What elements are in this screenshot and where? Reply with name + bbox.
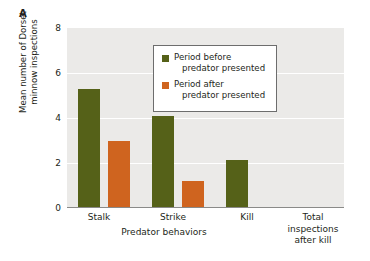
x-axis-title: Predator behaviors [89, 227, 239, 237]
bar-strike-before[interactable] [152, 116, 174, 208]
y-tick-label-4: 4 [44, 113, 61, 123]
legend-label-before: Period before predator presented [174, 52, 265, 74]
y-axis-tick-labels: 8 6 4 2 0 [44, 0, 61, 261]
x-tick-label-stalk: Stalk [64, 212, 134, 224]
legend-label-before-line-2: predator presented [174, 63, 265, 74]
gridline-4 [67, 118, 344, 119]
legend-swatch-before-icon [162, 55, 169, 62]
y-axis-title: Mean number of Dorset minnow inspections [15, 0, 43, 147]
x-tick-label-stalk-line-1: Stalk [64, 212, 134, 224]
x-tick-label-total-line-1: Total [265, 212, 361, 224]
y-tick-label-8: 8 [44, 23, 61, 33]
x-tick-label-total-line-2: inspections [265, 224, 361, 236]
x-tick-label-total-line-3: after kill [265, 235, 361, 247]
legend-label-after-line-2: predator presented [174, 90, 265, 101]
chart-legend: Period before predator presented Period … [153, 45, 277, 112]
x-tick-label-total: Total inspections after kill [265, 212, 361, 247]
legend-item-after[interactable]: Period after predator presented [162, 79, 270, 101]
legend-label-after-line-1: Period after [174, 79, 224, 89]
y-axis-title-line-1: Mean number of Dorset [18, 11, 29, 113]
y-tick-label-2: 2 [44, 158, 61, 168]
legend-item-before[interactable]: Period before predator presented [162, 52, 270, 74]
x-tick-label-strike: Strike [138, 212, 208, 224]
y-tick-label-0: 0 [44, 203, 61, 213]
bar-strike-after[interactable] [182, 181, 204, 208]
legend-label-after: Period after predator presented [174, 79, 265, 101]
bar-stalk-before[interactable] [78, 89, 100, 208]
legend-swatch-after-icon [162, 82, 169, 89]
legend-label-before-line-1: Period before [174, 52, 231, 62]
x-tick-label-strike-line-1: Strike [138, 212, 208, 224]
bar-stalk-after[interactable] [108, 141, 130, 208]
bar-kill-before[interactable] [226, 160, 248, 208]
y-axis-title-line-2: minnow inspections [29, 19, 40, 104]
y-tick-label-6: 6 [44, 68, 61, 78]
x-axis-baseline [67, 207, 344, 208]
